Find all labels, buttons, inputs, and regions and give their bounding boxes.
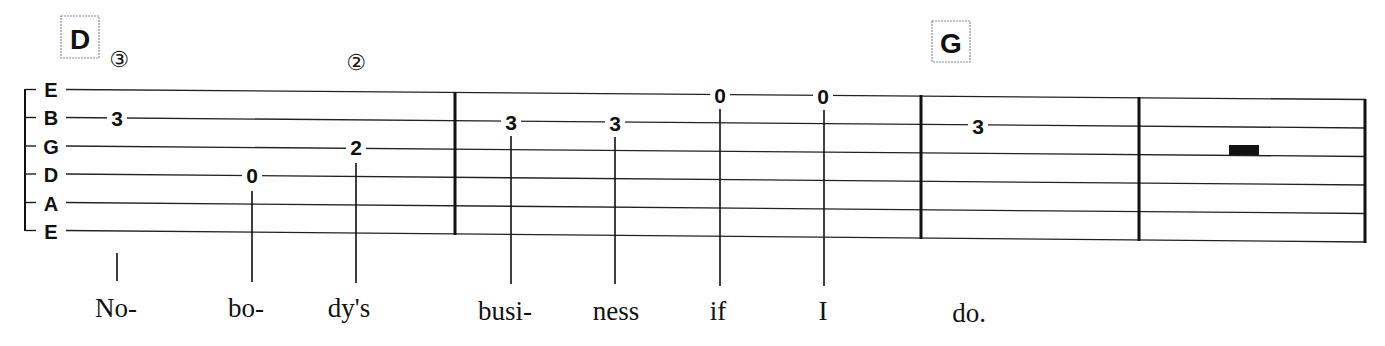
chord-name: G <box>940 28 962 59</box>
string-2-indicator-icon: ② <box>346 50 366 75</box>
lyric-syllable: I <box>819 296 828 326</box>
fret-number: 3 <box>609 112 621 135</box>
fret-number: 3 <box>111 107 123 130</box>
string-label-high-e: E <box>44 79 57 101</box>
fret-number: 3 <box>505 111 517 134</box>
lyric-syllable: do. <box>952 298 986 328</box>
chord-name: D <box>70 24 90 55</box>
lyrics: No- bo- dy's busi- ness if I do. <box>95 293 986 328</box>
whole-rest-icon <box>1229 145 1259 155</box>
lyric-syllable: bo- <box>228 293 264 323</box>
fret-number: 0 <box>246 164 258 187</box>
string-label-low-e: E <box>44 221 57 243</box>
string-label-a: A <box>44 193 58 215</box>
staff-bracket <box>25 89 36 231</box>
note-backgrounds <box>107 84 988 186</box>
barlines <box>455 92 1365 243</box>
string-label-g: G <box>43 136 59 158</box>
fret-number: 0 <box>714 84 726 107</box>
chord-box-d: D <box>61 16 99 58</box>
chord-box-g: G <box>932 21 970 62</box>
fret-number: 0 <box>817 85 829 108</box>
lyric-syllable: busi- <box>478 296 532 326</box>
lyric-syllable: dy's <box>328 293 370 323</box>
lyric-syllable: ness <box>593 296 640 326</box>
string-labels: E B G D A E <box>43 79 59 243</box>
string-label-d: D <box>44 164 58 186</box>
rhythm-stems <box>117 109 824 286</box>
fret-number: 2 <box>350 136 362 159</box>
tab-staff-diagram: D G ③ ② E B G D A E <box>0 0 1385 346</box>
lyric-syllable: No- <box>95 293 137 323</box>
fret-number: 3 <box>972 115 984 138</box>
string-3-indicator-icon: ③ <box>109 47 129 72</box>
lyric-syllable: if <box>710 296 727 326</box>
string-label-b: B <box>44 107 58 129</box>
